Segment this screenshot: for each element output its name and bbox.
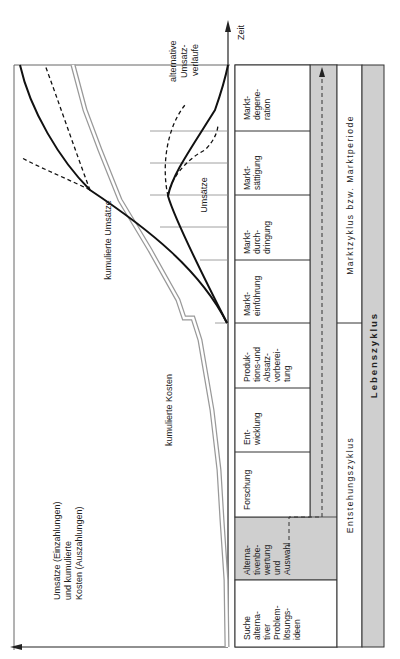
phase-ticks <box>150 131 228 323</box>
cumulative-costs-label: kumulierte Kosten <box>164 374 174 446</box>
value-axis-arrow-icon <box>10 644 22 650</box>
x-axis-label: Zeit <box>236 24 246 40</box>
alt-revenue-2 <box>165 105 185 196</box>
cumulative-revenue-label: kumulierte Umsätze <box>103 200 113 280</box>
revenue-label: Umsätze <box>199 177 209 213</box>
time-axis-arrow-icon <box>225 20 231 32</box>
revenue-curve <box>168 65 228 323</box>
phase-alternativenbewertung: Alterna-tivenbe-wertungundAuswahl <box>242 543 292 576</box>
marktzyklus-label: Marktzyklus bzw. Marktperiode <box>345 115 355 275</box>
cumulative-revenue-curve <box>20 65 227 323</box>
product-lifecycle-diagram: Umsätze (Einzahlungen) und kumulierte Ko… <box>0 0 400 659</box>
lebenszyklus-label: Lebenszyklus <box>368 312 379 398</box>
dev-to-market-band <box>310 65 337 582</box>
alt-cumulative-revenue-2 <box>45 65 90 190</box>
y-axis-label: Umsätze (Einzahlungen) und kumulierte Ko… <box>52 499 84 600</box>
alt-revenue-label: alternative Umsatz- verläufe <box>168 38 200 82</box>
alt-revenue-1 <box>168 124 218 196</box>
entstehungszyklus-label: Entstehungszyklus <box>345 437 355 533</box>
phase-forschung: Forschung <box>242 470 252 510</box>
